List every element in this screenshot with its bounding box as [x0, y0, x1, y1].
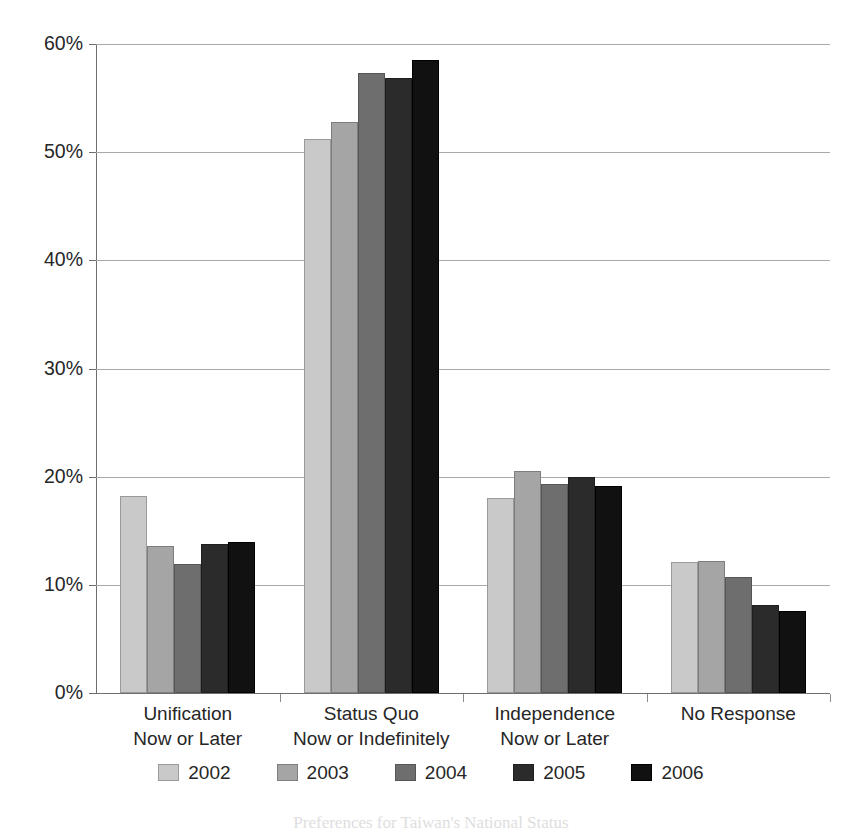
category-label-line2: Now or Later: [463, 726, 647, 751]
legend-swatch-icon: [277, 764, 298, 781]
y-axis-tick-label: 40%: [8, 250, 83, 270]
legend-item-label: 2003: [307, 763, 349, 782]
legend-swatch-icon: [158, 764, 179, 781]
legend-swatch-icon: [513, 764, 534, 781]
bar-2005-group-2: [385, 78, 412, 693]
y-axis-tick-label: 30%: [8, 359, 83, 379]
bar-2005-group-4: [752, 605, 779, 693]
category-label-line1: Independence: [463, 701, 647, 726]
category-label-3: IndependenceNow or Later: [463, 701, 647, 751]
legend-item-2003[interactable]: 2003: [277, 763, 349, 782]
bar-2006-group-3: [595, 486, 622, 693]
y-axis-tick-mark: [89, 693, 96, 694]
category-label-line1: Unification: [96, 701, 280, 726]
legend-item-2005[interactable]: 2005: [513, 763, 585, 782]
gridline: [96, 369, 830, 370]
y-axis-tick-mark: [89, 260, 96, 261]
category-label-line1: Status Quo: [280, 701, 464, 726]
bar-2006-group-2: [412, 60, 439, 693]
bar-2005-group-3: [568, 477, 595, 693]
figure-caption: Preferences for Taiwan's National Status: [0, 813, 862, 829]
y-axis-tick-mark: [89, 585, 96, 586]
bar-2006-group-1: [228, 542, 255, 693]
legend-item-2004[interactable]: 2004: [395, 763, 467, 782]
y-axis-tick-mark: [89, 369, 96, 370]
bar-2002-group-4: [671, 562, 698, 693]
bar-2003-group-3: [514, 471, 541, 693]
legend-swatch-icon: [631, 764, 652, 781]
legend-item-2006[interactable]: 2006: [631, 763, 703, 782]
bar-2004-group-2: [358, 73, 385, 693]
category-label-1: UnificationNow or Later: [96, 701, 280, 751]
legend-item-2002[interactable]: 2002: [158, 763, 230, 782]
gridline: [96, 477, 830, 478]
bar-2003-group-4: [698, 561, 725, 693]
bar-2004-group-4: [725, 577, 752, 693]
category-label-line2: Now or Later: [96, 726, 280, 751]
y-axis-tick-label: 10%: [8, 575, 83, 595]
legend-item-label: 2006: [661, 763, 703, 782]
bar-2004-group-3: [541, 484, 568, 693]
bar-2002-group-2: [304, 139, 331, 693]
legend-item-label: 2005: [543, 763, 585, 782]
bar-2003-group-1: [147, 546, 174, 693]
chart-legend: 20022003200420052006: [0, 763, 862, 782]
gridline: [96, 152, 830, 153]
bar-chart-figure: 60%50%40%30%20%10%0% UnificationNow or L…: [0, 0, 862, 829]
y-axis-tick-mark: [89, 44, 96, 45]
category-label-2: Status QuoNow or Indefinitely: [280, 701, 464, 751]
bar-2006-group-4: [779, 611, 806, 693]
category-label-line2: Now or Indefinitely: [280, 726, 464, 751]
y-axis-tick-label: 20%: [8, 467, 83, 487]
legend-swatch-icon: [395, 764, 416, 781]
bar-2002-group-1: [120, 496, 147, 693]
bar-2003-group-2: [331, 122, 358, 693]
plot-area: [96, 44, 830, 693]
y-axis-tick-label: 0%: [8, 683, 83, 703]
y-axis-tick-label: 60%: [8, 34, 83, 54]
y-axis-tick-mark: [89, 152, 96, 153]
bar-2004-group-1: [174, 564, 201, 693]
gridline: [96, 260, 830, 261]
gridline: [96, 44, 830, 45]
legend-item-label: 2004: [425, 763, 467, 782]
bar-2005-group-1: [201, 544, 228, 693]
y-axis-tick-label: 50%: [8, 142, 83, 162]
category-label-line1: No Response: [647, 701, 831, 726]
bar-2002-group-3: [487, 498, 514, 693]
legend-item-label: 2002: [188, 763, 230, 782]
y-axis-tick-mark: [89, 477, 96, 478]
x-axis-tick-mark: [830, 694, 831, 702]
category-label-4: No Response: [647, 701, 831, 726]
